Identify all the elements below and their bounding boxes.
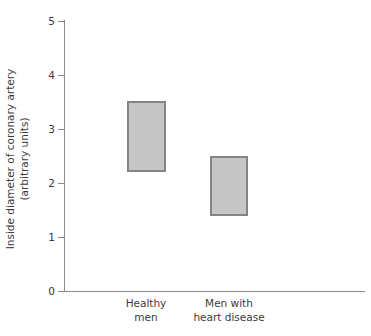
y-axis-title-line-2: (arbitrary units) xyxy=(17,117,31,200)
y-tick-mark xyxy=(58,291,64,292)
bar-men-with-heart-disease xyxy=(210,156,248,216)
x-category-label-healthy-men: Healthy men xyxy=(106,296,186,324)
x-category-label-line-2: men xyxy=(106,310,186,324)
y-tick-mark xyxy=(58,75,64,76)
y-axis-title: Inside diameter of coronary artery (arbi… xyxy=(0,23,34,295)
chart-figure: 5 4 3 2 1 0 Inside diameter of coronary … xyxy=(0,0,371,336)
x-category-label-line-1: Men with xyxy=(179,296,279,310)
y-tick-label: 0 xyxy=(39,286,55,297)
x-category-label-men-with-heart-disease: Men with heart disease xyxy=(179,296,279,324)
y-axis-line xyxy=(64,20,65,292)
y-tick-mark xyxy=(58,183,64,184)
bar-healthy-men xyxy=(127,101,166,172)
x-category-label-line-2: heart disease xyxy=(179,310,279,324)
y-tick-label: 2 xyxy=(39,178,55,189)
x-category-label-line-1: Healthy xyxy=(106,296,186,310)
y-tick-label: 1 xyxy=(39,232,55,243)
y-tick-label: 3 xyxy=(39,124,55,135)
y-tick-mark xyxy=(58,21,64,22)
y-tick-label: 5 xyxy=(39,16,55,27)
y-tick-mark xyxy=(58,237,64,238)
x-axis-line xyxy=(64,291,365,292)
y-tick-label: 4 xyxy=(39,70,55,81)
y-axis-title-line-1: Inside diameter of coronary artery xyxy=(3,69,17,250)
y-tick-mark xyxy=(58,129,64,130)
